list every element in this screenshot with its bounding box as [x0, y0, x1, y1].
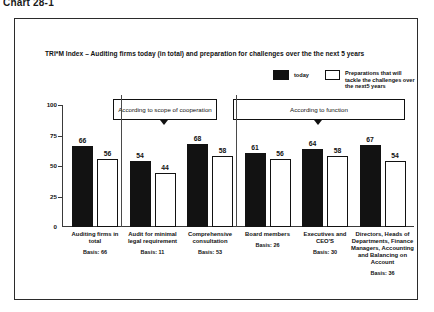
bar-future	[97, 159, 118, 227]
x-axis-category-name: Executives and CEO'S	[304, 231, 347, 244]
x-axis-category-name: Board members	[245, 231, 290, 237]
x-axis-basis-label: Basis: 26	[241, 242, 295, 249]
legend-label-today: today	[294, 72, 309, 79]
x-axis-category-name: Audit for minimal legal requirement	[128, 231, 177, 244]
chart-legend: today Preparations that will tackle the …	[273, 70, 417, 90]
bar-today	[130, 161, 151, 227]
x-axis-category-label: Executives and CEO'SBasis: 30	[298, 231, 352, 256]
x-axis-basis-label: Basis: 66	[68, 249, 122, 256]
x-axis-category-label: Auditing firms in totalBasis: 66	[68, 231, 122, 256]
legend-label-future: Preparations that will tackle the challe…	[345, 70, 417, 90]
y-tick-label: 25	[35, 193, 57, 200]
bar-today	[245, 153, 266, 227]
bar-value-label: 61	[244, 144, 266, 151]
bar-value-label: 44	[154, 164, 176, 171]
bar-future	[327, 156, 348, 227]
bar-value-label: 56	[97, 150, 119, 157]
bar-today	[187, 144, 208, 227]
bar-future	[155, 173, 176, 227]
y-tick-label: 50	[35, 162, 57, 169]
x-axis-category-label: Directors, Heads of Departments, Finance…	[351, 231, 415, 277]
bar-value-label: 54	[129, 152, 151, 159]
legend-item-today: today	[273, 70, 309, 80]
bar-future	[270, 159, 291, 227]
x-axis-category-label: Audit for minimal legal requirementBasis…	[126, 231, 180, 256]
chart-frame: TRI*M Index – Auditing firms today (in t…	[14, 18, 418, 300]
group-separator	[236, 95, 237, 227]
bar-today	[72, 146, 93, 227]
legend-item-future: Preparations that will tackle the challe…	[325, 70, 417, 90]
page-heading: Chart 28-1	[3, 0, 54, 6]
bar-value-label: 64	[302, 140, 324, 147]
bar-value-label: 67	[359, 136, 381, 143]
bar-future	[212, 156, 233, 227]
bar-value-label: 58	[212, 147, 234, 154]
x-axis-basis-label: Basis: 11	[126, 249, 180, 256]
bar-value-label: 68	[187, 135, 209, 142]
legend-swatch-today-icon	[273, 70, 289, 80]
group-separator	[121, 95, 122, 227]
x-axis-category-name: Comprehensive consultation	[188, 231, 232, 244]
y-tick-label: 100	[35, 101, 57, 108]
y-tick-label: 75	[35, 132, 57, 139]
bar-today	[302, 149, 323, 227]
x-axis-basis-label: Basis: 30	[298, 249, 352, 256]
legend-swatch-future-icon	[325, 70, 340, 80]
y-tick-label: 0	[35, 223, 57, 230]
bar-value-label: 54	[384, 152, 406, 159]
bar-value-label: 66	[72, 137, 94, 144]
x-axis-category-name: Directors, Heads of Departments, Finance…	[351, 231, 414, 265]
bar-today	[360, 145, 381, 227]
x-axis-category-name: Auditing firms in total	[72, 231, 119, 244]
plot-area: 665654446858615664586754	[62, 105, 412, 227]
x-axis-category-label: Comprehensive consultationBasis: 53	[183, 231, 237, 256]
bar-value-label: 56	[269, 150, 291, 157]
x-axis-basis-label: Basis: 36	[351, 270, 415, 277]
bar-value-label: 58	[327, 147, 349, 154]
x-axis-basis-label: Basis: 53	[183, 249, 237, 256]
x-axis-category-label: Board membersBasis: 26	[241, 231, 295, 249]
bar-future	[385, 161, 406, 227]
chart-title: TRI*M Index – Auditing firms today (in t…	[45, 50, 423, 57]
